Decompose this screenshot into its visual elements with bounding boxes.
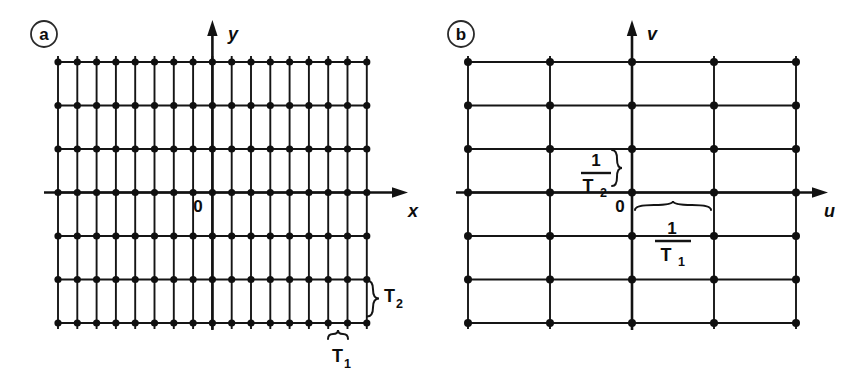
lattice-node: [132, 102, 139, 109]
lattice-node: [151, 319, 158, 326]
panel-a-t1-group: T 1: [328, 330, 351, 371]
lattice-node: [286, 145, 293, 152]
lattice-node: [305, 58, 312, 65]
lattice-node: [54, 276, 61, 283]
lattice-node: [286, 276, 293, 283]
lattice-node: [132, 189, 139, 196]
lattice-node: [247, 58, 254, 65]
lattice-node: [792, 58, 800, 66]
lattice-node: [286, 319, 293, 326]
lattice-node: [305, 102, 312, 109]
lattice-node: [267, 58, 274, 65]
lattice-node: [305, 276, 312, 283]
lattice-node: [151, 189, 158, 196]
lattice-node: [74, 319, 81, 326]
lattice-node: [464, 276, 472, 284]
lattice-node: [112, 189, 119, 196]
lattice-node: [151, 102, 158, 109]
panel-a-t1-label-sub: 1: [344, 357, 351, 371]
lattice-node: [54, 319, 61, 326]
lattice-node: [286, 58, 293, 65]
lattice-node: [344, 102, 351, 109]
lattice-node: [267, 319, 274, 326]
panel-a-t2-label: T: [384, 286, 395, 306]
lattice-node: [151, 145, 158, 152]
panel-b-inv-t2-denominator: T: [583, 176, 594, 196]
lattice-node: [190, 189, 197, 196]
lattice-node: [247, 102, 254, 109]
lattice-node: [228, 102, 235, 109]
lattice-node: [190, 58, 197, 65]
lattice-node: [286, 189, 293, 196]
lattice-node: [247, 276, 254, 283]
lattice-node: [363, 189, 370, 196]
lattice-node: [74, 145, 81, 152]
lattice-node: [464, 319, 472, 327]
lattice-node: [93, 102, 100, 109]
panel-b-axes: [456, 20, 828, 330]
lattice-node: [267, 145, 274, 152]
lattice-node: [792, 276, 800, 284]
lattice-node: [247, 232, 254, 239]
lattice-node: [228, 145, 235, 152]
lattice-node: [464, 145, 472, 153]
lattice-node: [112, 232, 119, 239]
lattice-node: [74, 276, 81, 283]
panel-a-t2-brace: [367, 281, 379, 317]
lattice-node: [628, 276, 636, 284]
panel-a-y-axis-label: y: [227, 24, 239, 44]
panel-b-label-group: b: [448, 21, 474, 47]
lattice-node: [325, 58, 332, 65]
lattice-node: [628, 232, 636, 240]
figure-container: a y x 0 T 2: [0, 0, 863, 380]
lattice-node: [363, 319, 370, 326]
panel-b-inv-t1-denominator: T: [661, 245, 672, 265]
lattice-node: [112, 58, 119, 65]
lattice-node: [305, 232, 312, 239]
panel-b-origin-label: 0: [615, 197, 624, 216]
lattice-node: [546, 276, 554, 284]
lattice-node: [546, 319, 554, 327]
panel-a-label: a: [39, 25, 49, 44]
lattice-node: [228, 189, 235, 196]
panel-b: b v u 0 1: [448, 20, 835, 330]
lattice-node: [325, 102, 332, 109]
lattice-node: [209, 276, 216, 283]
lattice-node: [286, 102, 293, 109]
lattice-node: [93, 232, 100, 239]
lattice-node: [247, 319, 254, 326]
lattice-node: [170, 145, 177, 152]
lattice-node: [228, 319, 235, 326]
lattice-node: [344, 276, 351, 283]
lattice-node: [247, 145, 254, 152]
lattice-node: [628, 102, 636, 110]
lattice-node: [363, 102, 370, 109]
lattice-node: [132, 232, 139, 239]
panel-b-inv-t1-brace: [635, 201, 711, 210]
lattice-node: [54, 189, 61, 196]
lattice-node: [305, 145, 312, 152]
lattice-node: [170, 189, 177, 196]
lattice-node: [286, 232, 293, 239]
lattice-node: [710, 319, 718, 327]
panel-a-t2-label-sub: 2: [396, 297, 403, 311]
lattice-node: [325, 276, 332, 283]
lattice-node: [710, 189, 718, 197]
lattice-node: [792, 232, 800, 240]
lattice-node: [151, 276, 158, 283]
lattice-node: [170, 102, 177, 109]
lattice-node: [93, 145, 100, 152]
lattice-node: [546, 58, 554, 66]
lattice-node: [363, 145, 370, 152]
panel-b-v-axis-label: v: [647, 24, 658, 44]
panel-b-label: b: [456, 25, 466, 44]
panel-b-inv-t1-numerator: 1: [667, 219, 676, 238]
lattice-node: [305, 189, 312, 196]
lattice-node: [190, 276, 197, 283]
panel-a-axes: [44, 20, 408, 330]
lattice-node: [267, 189, 274, 196]
panel-b-inv-t1-denominator-sub: 1: [678, 255, 685, 269]
lattice-node: [710, 145, 718, 153]
lattice-node: [792, 319, 800, 327]
lattice-node: [464, 232, 472, 240]
